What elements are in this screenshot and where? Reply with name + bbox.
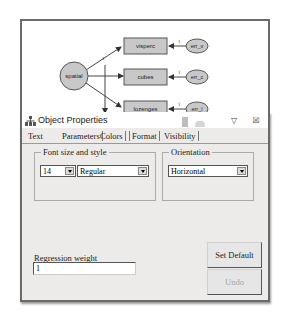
svg-text:1: 1 [178,70,181,75]
font-size-style-group: Font size and style 14 Regular [34,152,156,201]
tab-text[interactable]: Text [28,131,43,141]
path-spatial-lozenges [86,83,121,107]
sem-diagram: 1 spatial visperc cubes lozenges 1 err_v… [22,21,268,112]
close-button[interactable]: ☒ [249,115,263,126]
font-group-label: Font size and style [41,147,109,157]
font-size-select[interactable]: 14 [40,165,76,177]
tab-colors[interactable]: Colors [100,131,126,141]
background-artifact [195,121,205,127]
set-default-button[interactable]: Set Default [207,242,262,268]
svg-text:1: 1 [178,39,181,44]
background-artifact [182,117,188,127]
undo-button[interactable]: Undo [207,269,262,295]
pin-button[interactable]: ▽ [227,115,241,126]
object-properties-icon [25,116,36,126]
chevron-down-icon [138,167,147,175]
svg-text:spatial: spatial [65,73,82,79]
orientation-select[interactable]: Horizontal [168,165,248,177]
svg-text:1: 1 [102,56,105,61]
tab-parameters[interactable]: Parameters [62,131,103,141]
svg-text:1: 1 [178,102,181,107]
regression-weight-input[interactable]: 1 [33,262,136,275]
dialog-titlebar[interactable]: Object Properties ▽ ☒ [22,112,268,128]
tab-visibility[interactable]: Visibility [164,131,199,141]
orientation-group-label: Orientation [169,147,212,157]
svg-text:visperc: visperc [136,43,155,49]
svg-text:err_c: err_c [191,74,204,80]
dialog-title: Object Properties [38,115,108,125]
orientation-group: Orientation Horizontal [162,152,254,201]
svg-text:cubes: cubes [137,74,153,80]
path-diagram-canvas: 1 spatial visperc cubes lozenges 1 err_v… [20,19,270,112]
tab-bar: Text Parameters Colors Format Visibility [22,129,268,144]
tab-format[interactable]: Format [129,131,160,141]
svg-text:err_v: err_v [191,43,204,49]
object-properties-dialog: Object Properties ▽ ☒ Text Parameters Co… [20,112,270,302]
chevron-down-icon [65,167,74,175]
font-style-select[interactable]: Regular [77,165,149,177]
chevron-down-icon [237,167,246,175]
